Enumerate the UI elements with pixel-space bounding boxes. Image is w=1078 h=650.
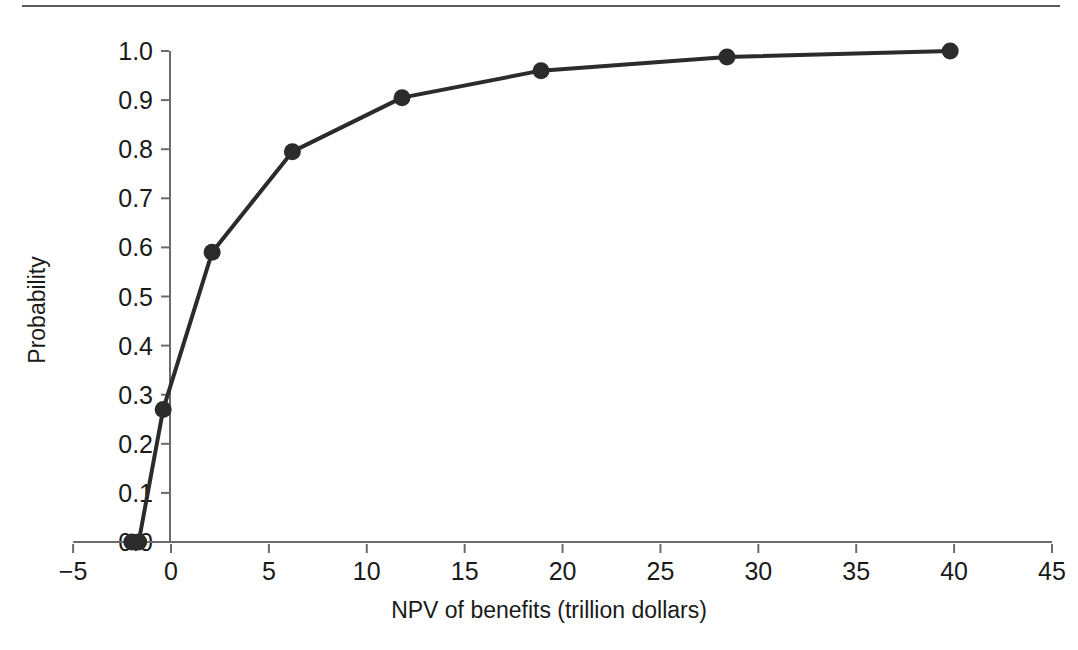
x-axis-tick-label: 15 xyxy=(451,557,479,585)
y-axis-tick-label: 0.2 xyxy=(118,430,153,458)
x-axis-tick-label: −5 xyxy=(59,557,88,585)
y-axis-tick-label: 0.6 xyxy=(118,233,153,261)
x-axis: −5051015202530354045 xyxy=(59,542,1066,585)
y-axis-title: Probability xyxy=(24,256,50,364)
data-point-marker xyxy=(942,43,959,60)
data-point-marker xyxy=(155,401,172,418)
x-axis-tick-label: 35 xyxy=(842,557,870,585)
x-axis-tick-label: 40 xyxy=(940,557,968,585)
data-point-marker xyxy=(284,143,301,160)
data-point-marker xyxy=(719,48,736,65)
data-point-marker xyxy=(394,89,411,106)
data-point-marker xyxy=(533,62,550,79)
y-axis-tick-label: 0.4 xyxy=(118,332,153,360)
figure-container: 0.00.10.20.30.40.50.60.70.80.91.0 −50510… xyxy=(0,0,1078,650)
y-axis: 0.00.10.20.30.40.50.60.70.80.91.0 xyxy=(118,37,170,556)
y-axis-tick-label: 0.5 xyxy=(118,283,153,311)
series-line xyxy=(132,51,950,542)
y-axis-tick-label: 0.8 xyxy=(118,135,153,163)
x-axis-tick-label: 10 xyxy=(353,557,381,585)
x-axis-tick-label: 5 xyxy=(262,557,276,585)
data-series xyxy=(123,43,958,551)
x-axis-tick-label: 20 xyxy=(549,557,577,585)
y-axis-tick-label: 1.0 xyxy=(118,37,153,65)
x-axis-tick-label: 30 xyxy=(744,557,772,585)
x-axis-tick-label: 0 xyxy=(164,557,178,585)
x-axis-tick-label: 45 xyxy=(1038,557,1066,585)
x-axis-tick-label: 25 xyxy=(647,557,675,585)
y-axis-tick-label: 0.7 xyxy=(118,184,153,212)
data-point-marker xyxy=(204,244,221,261)
data-point-marker xyxy=(130,534,147,551)
y-axis-tick-label: 0.9 xyxy=(118,86,153,114)
chart-plot: 0.00.10.20.30.40.50.60.70.80.91.0 −50510… xyxy=(0,0,1078,650)
y-axis-tick-label: 0.3 xyxy=(118,381,153,409)
x-axis-title: NPV of benefits (trillion dollars) xyxy=(391,597,707,623)
